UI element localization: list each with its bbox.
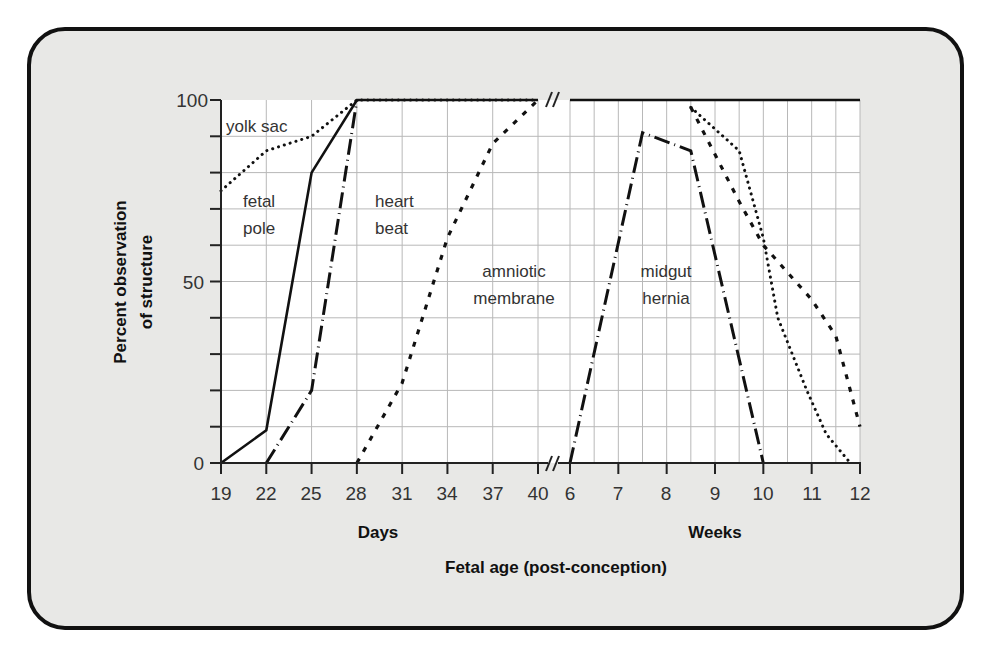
y-axis-title-line1: Percent observation xyxy=(111,200,130,363)
x-ticks xyxy=(221,463,860,474)
x-tick-label: 37 xyxy=(482,483,503,504)
annotation-amniotic-membrane: amniotic xyxy=(482,262,546,281)
x-weeks-label: Weeks xyxy=(688,523,742,542)
annotation-amniotic-membrane: membrane xyxy=(473,289,554,308)
annotation-midgut-hernia: hernia xyxy=(642,289,690,308)
day-tick-labels: 19 22 25 28 31 34 37 40 xyxy=(210,483,548,504)
x-tick-label: 6 xyxy=(565,483,576,504)
y-tick-label: 0 xyxy=(193,453,204,474)
x-tick-label: 8 xyxy=(661,483,672,504)
x-tick-label: 28 xyxy=(345,483,366,504)
annotation-heart-beat: beat xyxy=(375,219,408,238)
x-tick-label: 11 xyxy=(802,483,822,504)
x-tick-label: 9 xyxy=(710,483,721,504)
x-tick-label: 10 xyxy=(752,483,773,504)
x-tick-label: 40 xyxy=(527,483,548,504)
y-tick-label: 100 xyxy=(176,90,208,111)
x-tick-label: 19 xyxy=(210,483,231,504)
annotation-fetal-pole: pole xyxy=(243,219,275,238)
y-axis-title: Percent observation of structure xyxy=(111,200,156,363)
annotation-fetal-pole: fetal xyxy=(243,192,275,211)
x-tick-label: 22 xyxy=(255,483,276,504)
x-tick-label: 31 xyxy=(391,483,412,504)
x-tick-label: 25 xyxy=(300,483,321,504)
y-axis-title-line2: of structure xyxy=(137,235,156,329)
y-tick-label: 50 xyxy=(183,272,204,293)
x-axis-title: Fetal age (post-conception) xyxy=(445,558,667,577)
y-ticks xyxy=(210,100,221,463)
x-tick-label: 7 xyxy=(613,483,624,504)
annotation-midgut-hernia: midgut xyxy=(640,262,691,281)
week-tick-labels: 6 7 8 9 10 11 12 xyxy=(565,483,871,504)
annotation-heart-beat: heart xyxy=(375,192,414,211)
x-tick-label: 34 xyxy=(436,483,458,504)
x-tick-label: 12 xyxy=(849,483,870,504)
chart: 0 50 100 19 22 25 28 31 34 37 40 6 7 8 9… xyxy=(0,0,993,645)
annotation-yolk-sac: yolk sac xyxy=(226,117,288,136)
x-days-label: Days xyxy=(358,523,399,542)
